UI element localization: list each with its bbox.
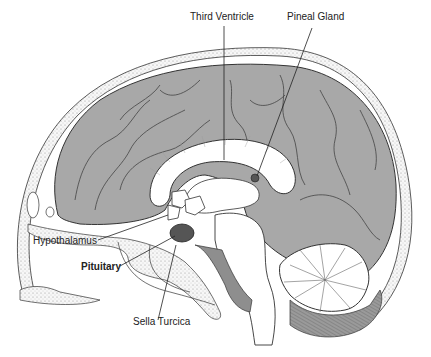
label-third-ventricle: Third Ventricle	[190, 12, 254, 22]
brainstem	[195, 213, 275, 345]
pituitary-gland	[170, 224, 194, 242]
pineal-gland	[251, 174, 259, 182]
label-sella-turcica: Sella Turcica	[133, 317, 190, 327]
label-hypothalamus: Hypothalamus	[33, 236, 97, 246]
label-pituitary: Pituitary	[81, 262, 121, 272]
brain-sagittal-diagram	[0, 0, 431, 357]
label-pineal-gland: Pineal Gland	[287, 12, 344, 22]
